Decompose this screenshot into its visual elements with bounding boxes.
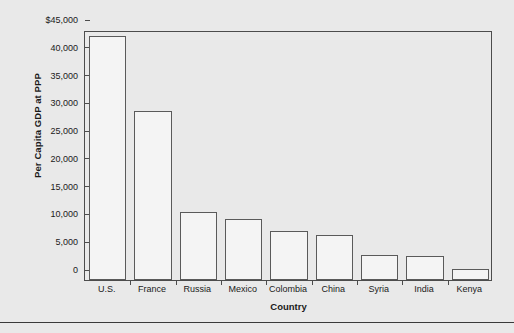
x-axis-tick-label: India [401,284,446,294]
bar [406,256,443,280]
y-axis-tick-label: 30,000 [50,98,85,108]
y-axis-tick-label: $45,000 [45,15,85,25]
y-axis-tick-label: 20,000 [50,154,85,164]
chart-figure: Per Capita GDP at PPP 05,00010,00015,000… [0,0,514,333]
y-axis-tick-text: 35,000 [50,71,85,81]
y-axis-tick-text: $45,000 [45,15,85,25]
bar [452,269,489,280]
x-axis-tick-label: Colombia [265,284,310,294]
y-axis-tick-label: 0 [73,265,85,275]
y-axis-tick-text: 15,000 [50,182,85,192]
y-axis-tick-label: 40,000 [50,43,85,53]
x-axis-tick-label: Kenya [447,284,492,294]
x-axis-tick-label: Mexico [220,284,265,294]
x-axis-tick-label: Syria [356,284,401,294]
y-axis-tick-text: 0 [73,265,85,275]
bottom-divider [0,322,514,323]
bar [225,219,262,280]
y-axis-tick-text: 30,000 [50,98,85,108]
bar [89,36,126,280]
y-axis-tick-label: 10,000 [50,209,85,219]
x-axis-tick-label: U.S. [84,284,129,294]
bar [316,235,353,280]
y-axis-tick-text: 20,000 [50,154,85,164]
y-axis-tick-label: 35,000 [50,71,85,81]
y-axis-title: Per Capita GDP at PPP [32,46,43,206]
y-axis-tick-label: 5,000 [55,237,85,247]
bar [134,111,171,280]
y-axis-tick-label: 25,000 [50,126,85,136]
x-axis-title: Country [84,301,493,312]
bar [270,231,307,280]
y-axis-tick-text: 10,000 [50,209,85,219]
bar [361,255,398,280]
x-axis-tick-label: China [311,284,356,294]
x-axis-tick-label: Russia [175,284,220,294]
y-axis-tick-text: 25,000 [50,126,85,136]
plot-area: 05,00010,00015,00020,00025,00030,00035,0… [84,31,492,281]
y-axis-tick-text: 40,000 [50,43,85,53]
y-axis-tick-label: 15,000 [50,182,85,192]
bar [180,212,217,280]
y-axis-tick-text: 5,000 [55,237,85,247]
x-axis-tick-label: France [129,284,174,294]
y-axis-tick-mark [85,20,90,21]
